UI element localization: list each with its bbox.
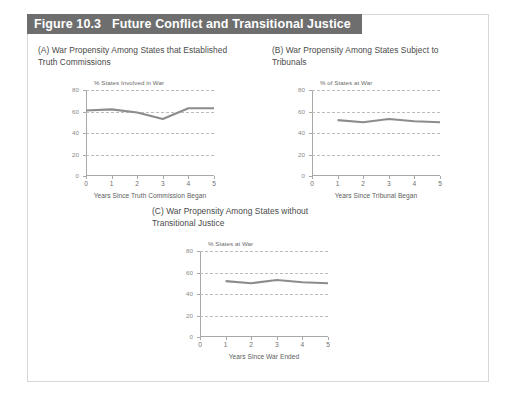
chart-a: 020406080012345% States Involved in WarY… [38, 74, 270, 192]
panel-b: (B) War Propensity Among States Subject … [272, 44, 494, 192]
panel-a: (A) War Propensity Among States that Est… [38, 44, 270, 192]
panel-c-caption: (C) War Propensity Among States without … [152, 205, 384, 229]
chart-b-series [272, 74, 470, 206]
figure-title-bar: Figure 10.3 Future Conflict and Transiti… [27, 14, 362, 34]
chart-a-series [38, 74, 244, 206]
chart-c: 020406080012345% States at WarYears Sinc… [152, 235, 384, 363]
panel-a-caption: (A) War Propensity Among States that Est… [38, 44, 270, 68]
chart-c-series [152, 235, 358, 367]
figure-title: Future Conflict and Transitional Justice [112, 17, 351, 31]
chart-b: 020406080012345% of States at WarYears S… [272, 74, 487, 192]
figure-number-label: Figure 10.3 [34, 17, 101, 31]
panel-c: (C) War Propensity Among States without … [152, 205, 384, 363]
panel-b-caption: (B) War Propensity Among States Subject … [272, 44, 494, 68]
